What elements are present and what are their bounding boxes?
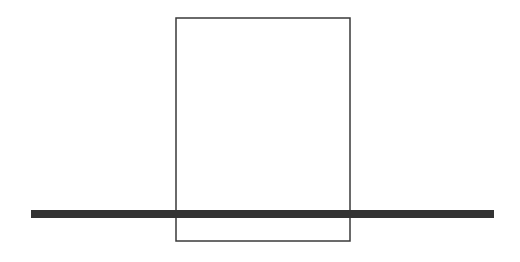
rectangle-shape [176,18,350,241]
diagram-canvas [0,0,520,262]
